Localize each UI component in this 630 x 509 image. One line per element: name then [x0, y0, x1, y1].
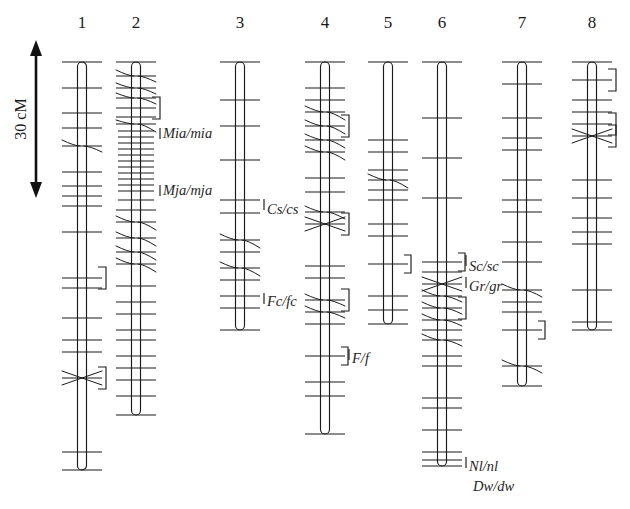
- scale-arrow-up-icon: [30, 40, 42, 56]
- marker: [62, 267, 106, 289]
- marker: [572, 69, 616, 91]
- marker: [116, 70, 156, 82]
- chromosome-body-4: [321, 62, 330, 434]
- marker: [305, 306, 345, 318]
- locus-label-F-f: F/f: [351, 350, 371, 366]
- linkage-group-1: 1: [62, 13, 106, 470]
- marker: [305, 206, 345, 219]
- marker: [62, 367, 106, 389]
- marker: [422, 290, 462, 302]
- linkage-group-7: 7: [502, 13, 545, 386]
- scale-bar: 30 cM: [12, 40, 42, 198]
- marker: [116, 246, 156, 260]
- linkage-group-6: 6Sc/scGr/grNl/nlDw/dw: [422, 13, 514, 494]
- marker: [116, 83, 156, 94]
- linkage-group-number-4: 4: [321, 13, 330, 32]
- locus-label-Nl-nl: Nl/nl: [468, 458, 498, 474]
- marker: [368, 255, 411, 273]
- linkage-group-number-7: 7: [518, 13, 527, 32]
- marker: [116, 216, 156, 230]
- marker: [368, 174, 408, 188]
- linkage-group-number-5: 5: [384, 13, 393, 32]
- marker: [422, 334, 462, 346]
- marker: [220, 262, 260, 276]
- marker: [62, 140, 102, 152]
- marker: [305, 134, 345, 148]
- linkage-group-number-1: 1: [78, 13, 87, 32]
- marker: [422, 253, 465, 271]
- marker: [116, 232, 156, 246]
- chromosome-body-7: [518, 62, 527, 386]
- linkage-group-8: 8: [572, 13, 616, 330]
- linkage-group-number-2: 2: [132, 13, 141, 32]
- marker: [502, 284, 542, 297]
- linkage-group-number-3: 3: [236, 13, 245, 32]
- linkage-map-canvas: 30 cM 12Mia/miaMja/mja3Cs/csFc/fc4F/f56S…: [0, 0, 630, 509]
- marker: [305, 289, 349, 311]
- chromosome-body-3: [236, 62, 245, 330]
- locus-label-Cs-cs: Cs/cs: [267, 201, 299, 217]
- marker: [305, 347, 348, 365]
- linkage-group-number-6: 6: [438, 13, 447, 32]
- marker: [116, 120, 156, 132]
- chromosome-body-6: [438, 62, 447, 466]
- marker: [422, 314, 462, 326]
- marker: [305, 213, 349, 235]
- locus-label-Mia-mia: Mia/mia: [162, 125, 212, 141]
- marker: [305, 146, 345, 160]
- locus-label-Sc-sc: Sc/sc: [469, 258, 499, 274]
- marker: [220, 234, 260, 248]
- locus-label-Dw-dw: Dw/dw: [472, 478, 514, 494]
- linkage-group-4: 4F/f: [305, 13, 371, 434]
- linkage-group-5: 5: [368, 13, 411, 324]
- marker: [502, 321, 545, 339]
- scale-arrow-down-icon: [30, 182, 42, 198]
- chromosome-body-1: [78, 62, 87, 470]
- marker: [422, 277, 462, 291]
- marker: [572, 125, 616, 147]
- linkage-group-2: 2Mia/miaMja/mja: [116, 13, 212, 415]
- marker: [116, 97, 160, 119]
- marker: [116, 258, 156, 272]
- locus-label-Mja-mja: Mja/mja: [162, 182, 212, 198]
- chromosome-body-5: [384, 62, 393, 324]
- locus-label-Fc-fc: Fc/fc: [266, 293, 297, 309]
- marker: [502, 360, 542, 373]
- scale-bar-label: 30 cM: [12, 98, 29, 139]
- linkage-groups: 12Mia/miaMja/mja3Cs/csFc/fc4F/f56Sc/scGr…: [62, 13, 616, 494]
- linkage-group-3: 3Cs/csFc/fc: [220, 13, 299, 330]
- linkage-group-number-8: 8: [588, 13, 597, 32]
- marker: [305, 106, 345, 120]
- marker: [116, 93, 156, 104]
- linkage-map-figure: 30 cM 12Mia/miaMja/mja3Cs/csFc/fc4F/f56S…: [0, 0, 630, 509]
- locus-label-Gr-gr: Gr/gr: [469, 278, 502, 294]
